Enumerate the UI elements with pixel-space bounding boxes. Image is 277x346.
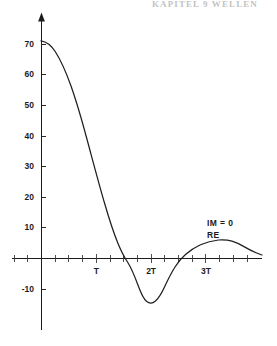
x-tick-label-T: T: [94, 266, 100, 276]
y-tick-label-60: 60: [25, 69, 35, 79]
x-axis-tick-labels: T 2T 3T: [94, 266, 212, 276]
y-tick-label-40: 40: [25, 131, 35, 141]
y-tick-label-neg10: -10: [22, 284, 35, 294]
y-tick-label-30: 30: [25, 161, 35, 171]
y-axis-arrowhead: [38, 13, 45, 22]
annotation-re-label: RE: [207, 230, 220, 240]
curve-annotation-group: IM = 0 RE: [207, 218, 233, 240]
y-tick-label-20: 20: [25, 192, 35, 202]
y-tick-label-10: 10: [25, 222, 35, 232]
plot-area: 70 60 50 40 30 20 10 -10: [0, 0, 277, 346]
figure-container: KAPITEL 9 WELLEN 70 60 50 40 30 20 10: [0, 0, 277, 346]
y-tick-label-50: 50: [25, 100, 35, 110]
annotation-im-label: IM = 0: [207, 218, 233, 228]
y-tick-label-70: 70: [25, 39, 35, 49]
x-tick-label-2T: 2T: [146, 266, 157, 276]
x-tick-label-3T: 3T: [201, 266, 212, 276]
y-axis-ticks: [42, 44, 47, 289]
impulse-response-curve: [41, 41, 262, 303]
